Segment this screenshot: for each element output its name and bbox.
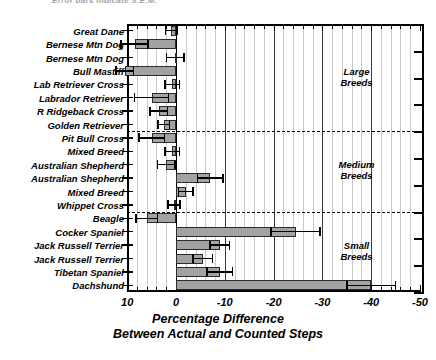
x-tick-label: -40 — [363, 296, 379, 308]
clipped-caption-text: Error bars indicate S.E.M. — [52, 0, 157, 5]
gridline — [215, 24, 216, 292]
horizontal-bar-chart: Error bars indicate S.E.M. Great DaneBer… — [0, 0, 436, 360]
error-bar — [165, 30, 177, 32]
error-bar-cap — [395, 281, 397, 290]
x-tick-label: -10 — [217, 296, 233, 308]
error-bar-cap — [174, 160, 176, 169]
error-bar — [207, 271, 232, 273]
error-bar-cap — [169, 120, 171, 129]
tick-top — [137, 24, 138, 29]
gridline — [264, 24, 265, 292]
x-tick-label: -50 — [412, 296, 428, 308]
error-bar — [150, 110, 168, 112]
gridline — [235, 24, 236, 292]
error-bar-cap — [149, 107, 151, 116]
group-label-line2: Breeds — [322, 251, 392, 262]
error-bar-cap — [157, 160, 159, 169]
gridline — [186, 24, 187, 292]
category-label: Bernese Mtn Dog — [0, 39, 124, 50]
error-bar-cap — [179, 147, 181, 156]
error-bar-cap — [346, 281, 348, 290]
error-bar-cap — [133, 66, 135, 75]
tick-bottom — [371, 285, 372, 292]
error-bar — [165, 151, 180, 153]
x-tick-label: 0 — [173, 296, 179, 308]
tick-top — [244, 24, 245, 29]
error-bar — [157, 164, 175, 166]
tick-top — [186, 24, 187, 29]
gridline — [244, 24, 245, 292]
group-separator — [127, 212, 420, 213]
error-bar-cap — [166, 53, 168, 62]
category-label: Bull Mastiff — [0, 65, 124, 76]
error-bar — [168, 204, 180, 206]
error-bar — [158, 124, 170, 126]
error-bar — [210, 244, 230, 246]
tick-bottom — [147, 287, 148, 292]
error-bar-cap — [157, 120, 159, 129]
tick-bottom — [391, 287, 392, 292]
error-bar — [135, 97, 169, 99]
tick-top — [322, 24, 323, 31]
category-label: Tibetan Spaniel — [0, 266, 124, 277]
tick-top — [147, 24, 148, 29]
error-bar — [166, 57, 184, 59]
right-axis-tick — [414, 292, 424, 294]
x-tick-label: 10 — [121, 296, 133, 308]
gridline — [196, 24, 197, 292]
error-bar — [197, 177, 222, 179]
error-bar-cap — [164, 133, 166, 142]
error-bar-cap — [270, 227, 272, 236]
group-separator — [127, 131, 420, 132]
right-axis-tick — [414, 24, 424, 26]
error-bar-cap — [232, 267, 234, 276]
category-label: Beagle — [0, 213, 124, 224]
gridline — [303, 24, 304, 292]
category-label: Whippet Cross — [0, 199, 124, 210]
category-label: Jack Russell Terrier — [0, 240, 124, 251]
x-tick-label: -20 — [266, 296, 282, 308]
gridline — [166, 24, 167, 292]
error-bar-cap — [176, 26, 178, 35]
tick-top — [274, 24, 275, 31]
category-label: Lab Retriever Cross — [0, 79, 124, 90]
right-axis-tick — [414, 185, 424, 187]
error-bar-cap — [179, 80, 181, 89]
tick-top — [196, 24, 197, 29]
right-axis-tick — [414, 265, 424, 267]
category-label: Jack Russell Terrier — [0, 253, 124, 264]
error-bar-cap — [167, 107, 169, 116]
error-bar — [136, 218, 157, 220]
category-label: Mixed Breed — [0, 186, 124, 197]
bar — [176, 280, 371, 290]
x-tick-label: -30 — [314, 296, 330, 308]
right-axis-tick — [414, 78, 424, 80]
tick-bottom — [127, 285, 128, 292]
category-label: Labrador Retriever — [0, 92, 124, 103]
gridline — [313, 24, 314, 292]
tick-top — [332, 24, 333, 29]
group-annotation: MediumBreeds — [322, 159, 392, 181]
group-label-line2: Breeds — [322, 170, 392, 181]
tick-top — [303, 24, 304, 29]
group-label-line1: Small — [322, 240, 392, 251]
error-bar-cap — [167, 200, 169, 209]
tick-top — [283, 24, 284, 29]
tick-top — [156, 24, 157, 29]
tick-top — [342, 24, 343, 29]
tick-top — [391, 24, 392, 29]
error-bar — [165, 84, 180, 86]
error-bar-cap — [157, 214, 159, 223]
error-bar-cap — [147, 40, 149, 49]
tick-bottom — [137, 287, 138, 292]
error-bar-cap — [212, 254, 214, 263]
category-label: Golden Retriever — [0, 119, 124, 130]
tick-top — [293, 24, 294, 29]
error-bar — [271, 231, 320, 233]
error-bar-cap — [168, 93, 170, 102]
tick-top — [264, 24, 265, 29]
tick-top — [254, 24, 255, 29]
category-label: Pit Bull Cross — [0, 132, 124, 143]
right-axis-tick — [414, 238, 424, 240]
tick-bottom — [410, 287, 411, 292]
